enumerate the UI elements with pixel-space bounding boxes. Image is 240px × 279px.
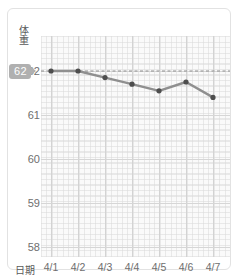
y-axis-title-char-2: 重 (19, 36, 39, 46)
x-axis: 日期 4/1 4/2 4/3 4/4 4/5 4/6 4/7 (8, 259, 230, 277)
data-point-4-7[interactable] (210, 95, 215, 100)
chart-plot-area (41, 36, 230, 257)
y-tick-label-59: 59 (16, 197, 40, 209)
weight-chart-card: 体 重 (7, 8, 231, 270)
y-tick-label-58: 58 (16, 241, 40, 253)
x-tick-label-4-2: 4/2 (65, 261, 91, 273)
data-point-4-3[interactable] (102, 75, 107, 80)
data-point-4-4[interactable] (129, 82, 134, 87)
x-tick-label-4-4: 4/4 (119, 261, 145, 273)
y-axis-title: 体 重 (19, 26, 39, 46)
data-point-4-6[interactable] (183, 79, 188, 84)
current-value-badge[interactable]: 62 (9, 64, 31, 79)
x-tick-label-4-3: 4/3 (92, 261, 118, 273)
x-tick-label-4-7: 4/7 (200, 261, 226, 273)
y-tick-label-61: 61 (16, 109, 40, 121)
data-point-4-2[interactable] (75, 68, 80, 73)
data-point-4-1[interactable] (48, 68, 53, 73)
x-tick-label-4-6: 4/6 (173, 261, 199, 273)
y-tick-label-60: 60 (16, 153, 40, 165)
chart-series-svg (41, 36, 230, 257)
x-tick-label-4-1: 4/1 (38, 261, 64, 273)
x-tick-label-4-5: 4/5 (146, 261, 172, 273)
x-axis-title: 日期 (15, 262, 35, 277)
data-point-4-5[interactable] (156, 88, 161, 93)
